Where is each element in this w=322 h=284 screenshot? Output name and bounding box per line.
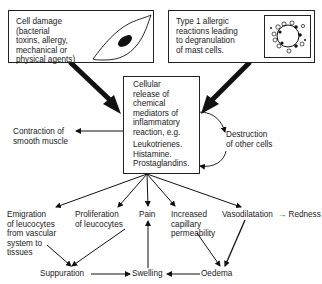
- thick-arrow-right: [201, 62, 250, 114]
- effect-line: Increased: [171, 210, 207, 220]
- cell-destruction-line-1: Destruction: [226, 130, 267, 140]
- degranulating-mast-cell-icon: [264, 15, 311, 58]
- cell-damage-line-5: physical agents): [16, 55, 75, 65]
- cell-destruction-line-2: of other cells: [226, 140, 272, 150]
- effect-line: tissues: [7, 248, 32, 258]
- mediator-prostaglandins: Prostaglandins.: [133, 159, 189, 169]
- mediators-line-4: mediators of: [133, 109, 178, 119]
- effect-line: capillary: [171, 220, 201, 230]
- mediator-leukotrienes: Leukotrienes.: [133, 140, 182, 150]
- cell-damage-box: Cell damage (bacterial toxins, allergy, …: [8, 10, 154, 63]
- cell-damage-line-2: (bacterial: [16, 27, 50, 37]
- suppuration-outcome: Suppuration: [40, 269, 84, 279]
- effect-line: Proliferation: [75, 210, 119, 220]
- mast-cell-box: Type 1 allergic reactions leading to deg…: [168, 10, 315, 63]
- mediators-line-2: release of: [133, 90, 169, 100]
- smooth-muscle-contraction-line-2: smooth muscle: [13, 137, 68, 147]
- effect-line: system to: [7, 239, 42, 249]
- cell-damage-line-1: Cell damage: [16, 17, 62, 27]
- cell-with-nucleus-icon: [85, 13, 153, 63]
- effect-vasodilatation: Vasodilatation: [222, 210, 273, 220]
- mast-cell-line-3: to degranulation: [176, 36, 235, 46]
- mast-cell-line-4: of mast cells.: [176, 46, 224, 56]
- chemical-mediators-box: Cellular release of chemical mediators o…: [123, 76, 200, 174]
- mediators-line-6: reaction, e.g.: [133, 128, 180, 138]
- mast-cell-line-1: Type 1 allergic: [176, 17, 229, 27]
- effect-line: permeability: [171, 229, 215, 239]
- smooth-muscle-contraction-line-1: Contraction of: [13, 127, 64, 137]
- mediators-line-1: Cellular: [133, 80, 161, 90]
- effect-line: from vascular: [7, 229, 56, 239]
- effect-line: of leucocytes: [7, 220, 55, 230]
- redness-outcome: → Redness: [278, 210, 321, 220]
- effect-line: Emigration: [7, 210, 46, 220]
- cell-damage-line-4: mechanical or: [16, 46, 67, 56]
- mediators-line-5: inflammatory: [133, 118, 180, 128]
- mediator-histamine: Histamine.: [133, 150, 172, 160]
- mast-cell-line-2: reactions leading: [176, 27, 238, 37]
- cell-damage-line-3: toxins, allergy,: [16, 36, 68, 46]
- swelling-outcome: Swelling: [132, 269, 163, 279]
- effect-line: of leucocytes: [75, 220, 123, 230]
- mediators-line-3: chemical: [133, 99, 165, 109]
- effect-pain: Pain: [139, 210, 155, 220]
- thick-arrow-left: [70, 62, 121, 114]
- oedema-outcome: Oedema: [201, 269, 232, 279]
